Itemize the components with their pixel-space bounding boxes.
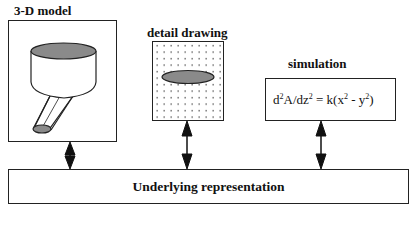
eq-part: A/dz <box>284 92 309 107</box>
arrow-detail-to-base <box>182 121 192 169</box>
arrow-simulation-to-base <box>316 121 326 169</box>
eq-part: ) <box>369 92 373 107</box>
detail-drawing-graphic <box>154 43 222 119</box>
arrow-model-to-base <box>65 142 75 169</box>
eq-part: - y <box>348 92 365 107</box>
underlying-representation-label: Underlying representation <box>8 179 409 195</box>
simulation-equation: d2A/dz2 = k(x2 - y2) <box>273 93 374 106</box>
eq-part: = k(x <box>313 92 344 107</box>
funnel-icon <box>31 43 96 133</box>
